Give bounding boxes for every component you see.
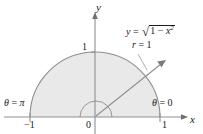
radicand-leading-term: 1 − bbox=[150, 25, 166, 36]
y-tick-label-1: 1 bbox=[82, 42, 87, 52]
equation-equals: = bbox=[133, 26, 139, 37]
theta-right-var: θ bbox=[152, 97, 157, 108]
radius-label-leader-line bbox=[138, 54, 147, 70]
radius-label: r = 1 bbox=[132, 40, 152, 50]
x-tick-label-origin: 0 bbox=[86, 120, 91, 130]
equation-lhs: y bbox=[126, 26, 130, 37]
theta-equals-pi-label: θ = π bbox=[4, 98, 25, 108]
radius-var: r bbox=[132, 39, 136, 50]
theta-left-var: θ bbox=[4, 97, 9, 108]
y-axis-label: y bbox=[96, 2, 101, 13]
radical-group: √1 − x2 bbox=[141, 24, 175, 37]
theta-left-value: π bbox=[20, 97, 25, 108]
theta-equals-zero-label: θ = 0 bbox=[152, 98, 173, 108]
theta-left-equals: = bbox=[11, 97, 17, 108]
radius-equals: = bbox=[138, 39, 144, 50]
theta-right-value: 0 bbox=[168, 97, 173, 108]
x-axis-arrowhead bbox=[181, 114, 188, 120]
theta-right-equals: = bbox=[159, 97, 165, 108]
x-tick-label-pos1: 1 bbox=[162, 120, 167, 130]
radical-sign-icon: √ bbox=[142, 24, 149, 39]
radius-value: 1 bbox=[147, 39, 152, 50]
x-tick-label-neg1: −1 bbox=[24, 120, 35, 130]
figure-canvas bbox=[0, 0, 203, 134]
y-axis-arrowhead bbox=[92, 12, 98, 19]
radicand-exponent: 2 bbox=[170, 24, 174, 32]
polar-half-disk-figure: y x −1 0 1 1 θ = π θ = 0 y = √1 − x2 r =… bbox=[0, 0, 203, 134]
x-axis-label: x bbox=[190, 114, 195, 125]
curve-equation-label: y = √1 − x2 bbox=[126, 24, 175, 37]
radicand: 1 − x2 bbox=[149, 25, 175, 36]
